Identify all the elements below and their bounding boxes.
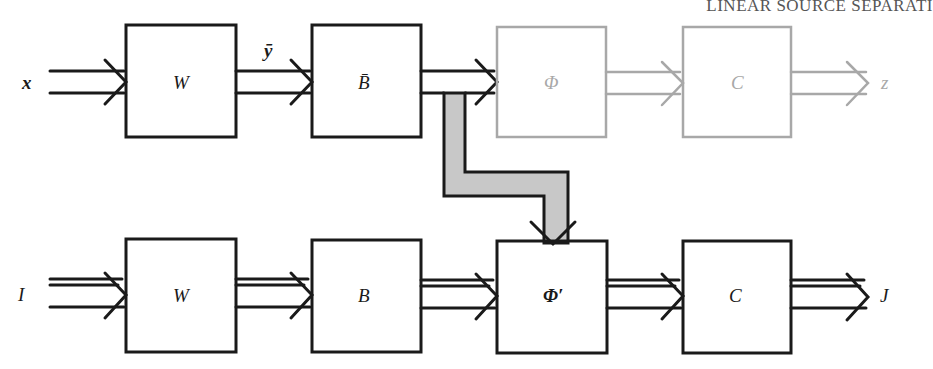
label-Phi: Φ bbox=[544, 72, 558, 93]
label-ybar: ȳ bbox=[262, 40, 273, 61]
top-row-active bbox=[50, 25, 497, 137]
label-Bbar: B̄ bbox=[358, 72, 370, 93]
label-W-top: W bbox=[173, 72, 191, 93]
label-J: J bbox=[880, 285, 890, 306]
label-x: x bbox=[21, 72, 32, 93]
connector-band bbox=[444, 93, 568, 243]
label-W-bottom: W bbox=[173, 285, 191, 306]
label-C-bottom: C bbox=[729, 285, 742, 306]
label-C-top: C bbox=[731, 72, 744, 93]
label-z: z bbox=[880, 72, 889, 93]
label-I: I bbox=[17, 284, 26, 305]
label-Phi-prime: Φ′ bbox=[543, 285, 563, 306]
label-B: B bbox=[358, 285, 370, 306]
